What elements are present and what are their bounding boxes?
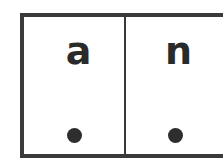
letter-card-grid: a n — [20, 13, 223, 158]
letter-text: a — [33, 31, 124, 71]
letter-cell-n: n — [126, 17, 223, 154]
dot-icon — [67, 128, 82, 143]
letter-text: n — [131, 31, 223, 71]
letter-cell-a: a — [24, 17, 124, 154]
dot-icon — [168, 128, 183, 143]
